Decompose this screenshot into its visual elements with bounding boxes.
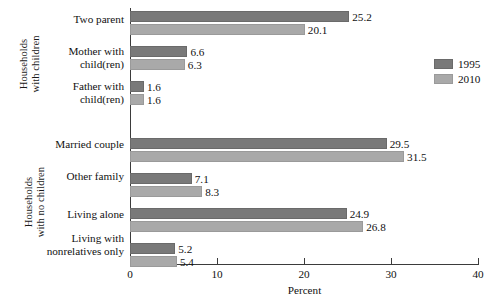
category-label-line: Mother with [4, 45, 124, 58]
bar-value-living-with-nonrelatives-only-2010: 5.4 [180, 257, 194, 268]
bar-value-two-parent-1995: 25.2 [352, 12, 372, 23]
category-label-line: child(ren) [4, 58, 124, 71]
bar-married-couple-2010 [130, 151, 404, 162]
bar-other-family-1995 [130, 173, 192, 184]
category-label-line: Other family [67, 170, 124, 182]
category-label-line: Living alone [67, 208, 124, 220]
category-label-other-family: Other family [4, 170, 128, 183]
bar-value-living-alone-1995: 24.9 [350, 209, 370, 220]
legend-label-1995: 1995 [458, 58, 480, 70]
legend-item-2010[interactable]: 2010 [434, 71, 480, 86]
bar-living-alone-1995 [130, 208, 347, 219]
category-label-line: child(ren) [4, 93, 124, 106]
bar-married-couple-1995 [130, 138, 387, 149]
x-tick-30 [391, 258, 392, 264]
legend-swatch-2010-icon [434, 74, 453, 84]
category-label-two-parent: Two parent [4, 13, 128, 26]
legend-item-1995[interactable]: 1995 [434, 56, 480, 71]
x-tick-label-40: 40 [472, 268, 483, 280]
x-tick-label-30: 30 [385, 268, 396, 280]
category-label-column: Two parent Mother with child(ren) Father… [0, 0, 128, 306]
legend-swatch-1995-icon [434, 59, 453, 69]
bar-living-with-nonrelatives-only-1995 [130, 243, 175, 254]
x-tick-40 [478, 258, 479, 264]
bar-value-father-with-children-1995: 1.6 [147, 82, 161, 93]
category-label-line: nonrelatives only [4, 245, 124, 258]
plot-area: 0 10 20 30 40 Percent 25.26.61.629.57.12… [130, 0, 495, 306]
bar-living-with-nonrelatives-only-2010 [130, 256, 177, 267]
bar-value-mother-with-children-2010: 6.3 [188, 60, 202, 71]
x-tick-10 [217, 258, 218, 264]
bar-father-with-children-2010 [130, 94, 144, 105]
category-label-married-couple: Married couple [4, 138, 128, 151]
bar-two-parent-1995 [130, 11, 349, 22]
bar-value-married-couple-1995: 29.5 [390, 139, 410, 150]
bar-chart: Households with children Households with… [0, 0, 495, 306]
category-label-father-with-children: Father with child(ren) [4, 80, 128, 105]
legend-label-2010: 2010 [458, 73, 480, 85]
category-label-living-with-nonrelatives-only: Living with nonrelatives only [4, 232, 128, 257]
x-axis-title: Percent [130, 284, 479, 296]
x-tick-label-0: 0 [127, 268, 133, 280]
bar-two-parent-2010 [130, 24, 305, 35]
x-tick-label-20: 20 [298, 268, 309, 280]
bar-value-father-with-children-2010: 1.6 [147, 95, 161, 106]
bar-value-living-alone-2010: 26.8 [366, 222, 386, 233]
bar-value-other-family-2010: 8.3 [205, 187, 219, 198]
category-label-line: Father with [4, 80, 124, 93]
category-label-line: Living with [4, 232, 124, 245]
legend: 1995 2010 [434, 56, 480, 86]
bar-mother-with-children-2010 [130, 59, 185, 70]
x-tick-label-10: 10 [211, 268, 222, 280]
bar-mother-with-children-1995 [130, 46, 187, 57]
category-label-living-alone: Living alone [4, 208, 128, 221]
bar-value-married-couple-2010: 31.5 [407, 152, 427, 163]
bar-value-other-family-1995: 7.1 [195, 174, 209, 185]
bar-value-mother-with-children-1995: 6.6 [190, 47, 204, 58]
bar-father-with-children-1995 [130, 81, 144, 92]
x-tick-20 [304, 258, 305, 264]
category-label-line: Married couple [55, 138, 124, 150]
bar-living-alone-2010 [130, 221, 363, 232]
bar-value-two-parent-2010: 20.1 [308, 25, 328, 36]
bar-value-living-with-nonrelatives-only-1995: 5.2 [178, 244, 192, 255]
category-label-line: Two parent [74, 13, 124, 25]
category-label-mother-with-children: Mother with child(ren) [4, 45, 128, 70]
bar-other-family-2010 [130, 186, 202, 197]
